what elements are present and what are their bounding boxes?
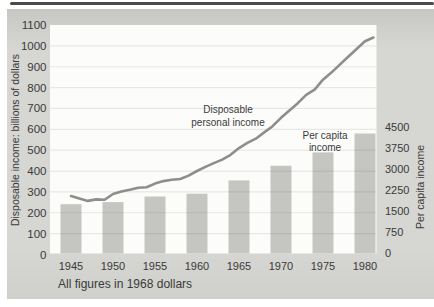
per-capita-bar xyxy=(313,152,334,253)
per-capita-bar xyxy=(355,134,376,254)
right-axis-tick-label: 0 xyxy=(385,247,391,259)
right-axis-tick-label: 750 xyxy=(385,226,403,238)
per-capita-bar xyxy=(145,197,166,254)
x-axis-tick-label: 1950 xyxy=(101,260,125,272)
x-axis-tick-label: 1965 xyxy=(227,260,251,272)
per-capita-bar xyxy=(271,166,292,254)
right-axis-title: Per capita income xyxy=(414,145,426,229)
line-series-annotation-line2: personal income xyxy=(191,117,265,128)
left-axis-title: Disposable income: billions of dollars xyxy=(9,54,21,226)
left-axis-tick-label: 400 xyxy=(27,165,46,177)
x-axis-tick-label: 1970 xyxy=(269,260,293,272)
right-axis-tick-label: 3750 xyxy=(385,142,409,154)
right-axis-tick-label: 3000 xyxy=(385,163,409,175)
right-axis-tick-label: 2250 xyxy=(385,184,409,196)
x-axis-tick-label: 1980 xyxy=(353,260,377,272)
figure-footnote: All figures in 1968 dollars xyxy=(58,277,192,291)
left-axis-tick-label: 0 xyxy=(40,249,46,261)
bar-series-annotation-line2: income xyxy=(309,142,342,153)
left-axis-tick-label: 700 xyxy=(27,102,46,114)
left-axis-tick-label: 1000 xyxy=(21,40,47,52)
income-chart: 0100200300400500600700800900100011000750… xyxy=(0,0,434,307)
line-series-annotation-line1: Disposable xyxy=(203,104,253,115)
x-axis-tick-label: 1960 xyxy=(185,260,209,272)
left-axis-tick-label: 900 xyxy=(27,61,46,73)
per-capita-bar xyxy=(61,204,82,253)
per-capita-bar xyxy=(103,202,124,253)
left-axis-tick-label: 800 xyxy=(27,82,46,94)
left-axis-tick-label: 500 xyxy=(27,144,46,156)
x-axis-tick-label: 1975 xyxy=(311,260,335,272)
left-axis-tick-label: 100 xyxy=(27,228,46,240)
left-axis-tick-label: 300 xyxy=(27,186,46,198)
left-axis-tick-label: 600 xyxy=(27,123,46,135)
per-capita-bar xyxy=(187,194,208,254)
right-axis-tick-label: 4500 xyxy=(385,121,409,133)
x-axis-tick-label: 1945 xyxy=(59,260,83,272)
left-axis-tick-label: 200 xyxy=(27,207,46,219)
x-axis-tick-label: 1955 xyxy=(143,260,167,272)
bar-series-annotation-line1: Per capita xyxy=(302,130,347,141)
chart-figure: 0100200300400500600700800900100011000750… xyxy=(0,0,434,307)
left-axis-tick-label: 1100 xyxy=(22,19,47,31)
right-axis-tick-label: 1500 xyxy=(385,205,409,217)
